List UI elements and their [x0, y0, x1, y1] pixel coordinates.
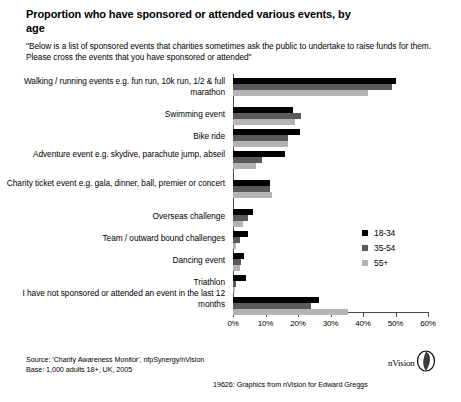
legend-swatch-icon [362, 245, 368, 251]
page-title: Proportion who have sponsored or attende… [26, 8, 356, 35]
bar-55+ [233, 141, 288, 147]
bar-55+ [233, 243, 236, 249]
legend-label: 35-54 [374, 243, 395, 253]
legend-swatch-icon [362, 230, 368, 236]
bar-group [0, 180, 461, 198]
bar-55+ [233, 309, 348, 315]
bar-group [0, 107, 461, 125]
bar-group [0, 151, 461, 169]
x-axis-tick-label: 20% [283, 319, 313, 328]
bar-group [0, 275, 461, 293]
logo-text: nVision [388, 358, 415, 368]
legend-label: 55+ [374, 258, 388, 268]
legend: 18-3435-5455+ [362, 225, 395, 270]
legend-item: 55+ [362, 255, 395, 270]
legend-label: 18-34 [374, 228, 395, 238]
legend-item: 18-34 [362, 225, 395, 240]
bar-55+ [233, 163, 256, 169]
bar-55+ [233, 221, 243, 227]
bar-55+ [233, 265, 240, 271]
bar-group [0, 129, 461, 147]
chart-page: Proportion who have sponsored or attende… [0, 0, 461, 402]
nvision-mark-icon [416, 350, 436, 376]
bar-55+ [233, 119, 295, 125]
bar-chart: 0%10%20%30%40%50%60% [0, 72, 461, 320]
bar-55+ [233, 192, 272, 198]
x-axis-tick-label: 60% [413, 319, 443, 328]
x-axis-tick-label: 50% [381, 319, 411, 328]
bar-group [0, 297, 461, 315]
source-line-2: Base: 1,000 adults 18+, UK, 2005 [26, 365, 204, 375]
source-note: Source: 'Charity Awareness Monitor', nfp… [26, 355, 204, 374]
credit-note: 19626: Graphics from nVision for Edward … [213, 380, 368, 389]
source-line-1: Source: 'Charity Awareness Monitor', nfp… [26, 355, 204, 365]
bar-group [0, 78, 461, 96]
nvision-logo: nVision [388, 352, 436, 374]
legend-swatch-icon [362, 260, 368, 266]
x-axis-tick-label: 0% [218, 319, 248, 328]
x-axis-tick-label: 30% [316, 319, 346, 328]
legend-item: 35-54 [362, 240, 395, 255]
bar-55+ [233, 90, 368, 96]
survey-question: "Below is a list of sponsored events tha… [26, 41, 441, 63]
x-axis-tick-label: 40% [348, 319, 378, 328]
x-axis-tick-label: 10% [251, 319, 281, 328]
bar-55+ [233, 287, 235, 293]
